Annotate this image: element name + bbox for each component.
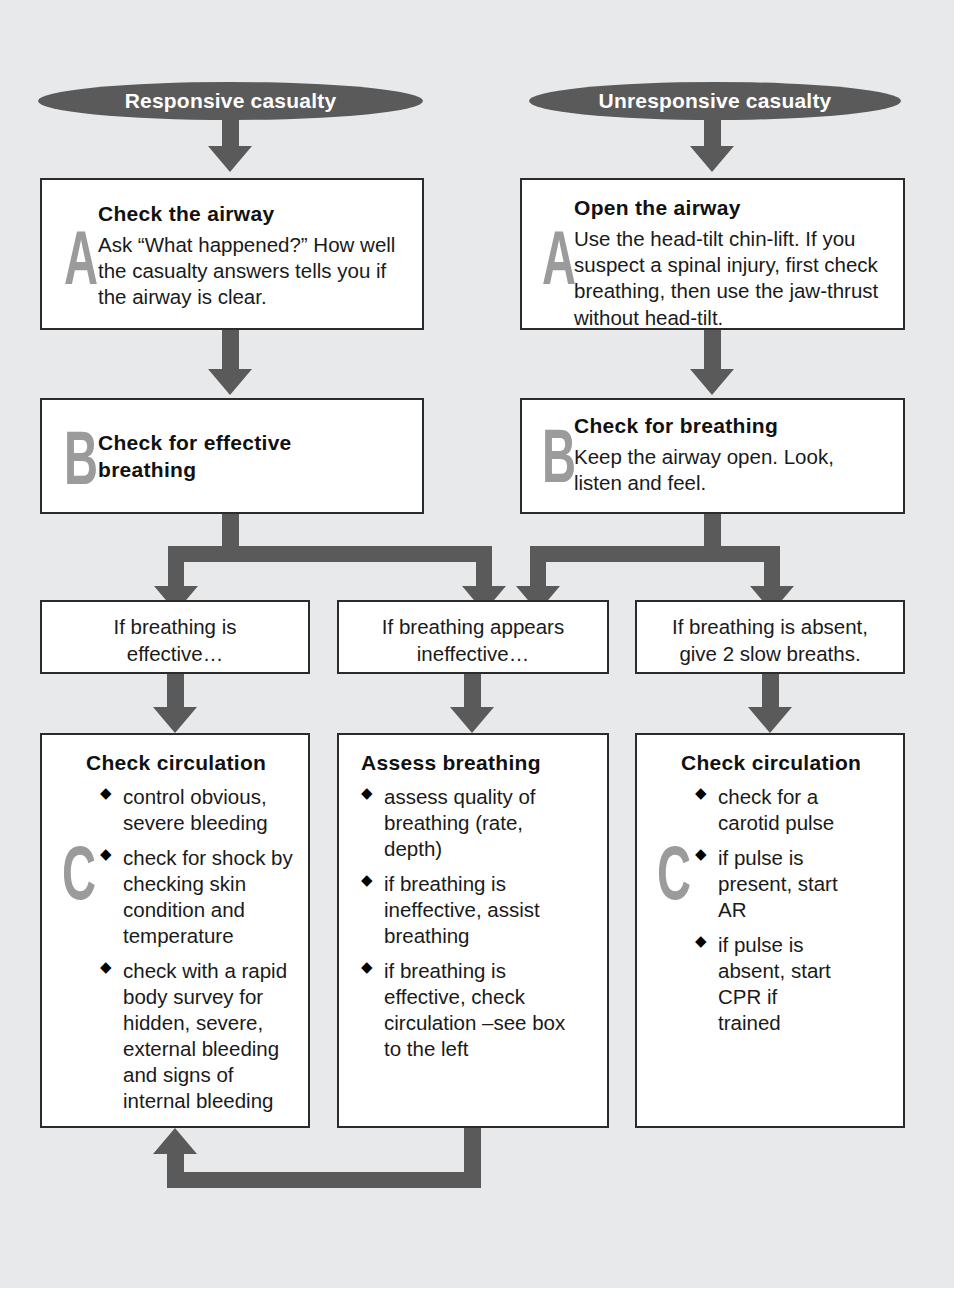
branch-right-drop-left	[530, 546, 546, 590]
box-body-open-the-airway: Use the head-tilt chin-lift. If you susp…	[574, 226, 909, 331]
arrow-head-effective-to-c	[153, 707, 197, 733]
box-check-for-effective-breathing: B Check for effective breathing	[40, 398, 424, 514]
condition-absent-line1: If breathing is absent,	[637, 613, 903, 640]
box-check-circulation-left: C Check circulation control obvious, sev…	[40, 733, 310, 1128]
arrow-head-left-a-to-b	[208, 369, 252, 395]
step-letter-a-right: A	[542, 220, 576, 296]
box-check-for-breathing: B Check for breathing Keep the airway op…	[520, 398, 905, 514]
bullet-list-check-circulation-right: check for a carotid pulse if pulse is pr…	[695, 784, 845, 1045]
step-letter-a-left: A	[64, 220, 98, 296]
box-title-open-the-airway: Open the airway	[574, 196, 741, 220]
arrow-head-ineffective-to-c	[450, 707, 494, 733]
branch-right-crossbar	[530, 546, 780, 562]
bullet-list-check-circulation-left: control obvious, severe bleeding check f…	[100, 784, 300, 1123]
branch-left-drop-right	[476, 546, 492, 590]
start-node-unresponsive-label: Unresponsive casualty	[599, 89, 832, 113]
box-condition-ineffective: If breathing appears ineffective…	[337, 600, 609, 674]
box-title-check-the-airway: Check the airway	[98, 202, 274, 226]
start-node-unresponsive: Unresponsive casualty	[529, 82, 901, 120]
branch-left-crossbar	[168, 546, 492, 562]
condition-effective-line1: If breathing is	[42, 613, 308, 640]
box-title-check-circulation-right: Check circulation	[681, 751, 861, 775]
branch-left-drop-left	[168, 546, 184, 590]
list-item: if pulse is absent, start CPR if trained	[695, 932, 845, 1036]
branch-right-drop-right	[764, 546, 780, 590]
box-assess-breathing: Assess breathing assess quality of breat…	[337, 733, 609, 1128]
box-condition-absent: If breathing is absent, give 2 slow brea…	[635, 600, 905, 674]
arrow-head-left-start-to-a	[208, 146, 252, 172]
return-arrow-crossbar	[167, 1172, 481, 1188]
box-body-check-the-airway: Ask “What happened?” How well the casual…	[98, 232, 413, 311]
arrow-head-right-start-to-a	[690, 146, 734, 172]
arrow-head-absent-to-c	[748, 707, 792, 733]
branch-right-stem	[704, 514, 721, 546]
condition-absent-line2: give 2 slow breaths.	[637, 640, 903, 667]
box-body-check-for-breathing: Keep the airway open. Look, listen and f…	[574, 444, 874, 496]
step-letter-b-right: B	[542, 418, 576, 494]
bullet-list-assess-breathing: assess quality of breathing (rate, depth…	[361, 784, 586, 1071]
list-item: check for shock by checking skin conditi…	[100, 845, 300, 949]
box-title-check-circulation-left: Check circulation	[86, 751, 266, 775]
list-item: assess quality of breathing (rate, depth…	[361, 784, 586, 862]
step-letter-c-right: C	[657, 835, 691, 911]
box-title-check-for-effective-breathing: Check for effective breathing	[98, 430, 378, 484]
list-item: check with a rapid body survey for hidde…	[100, 958, 300, 1114]
list-item: if pulse is present, start AR	[695, 845, 845, 923]
start-node-responsive: Responsive casualty	[38, 82, 423, 120]
diagram-canvas: Responsive casualty Unresponsive casualt…	[0, 0, 954, 1288]
box-open-the-airway: A Open the airway Use the head-tilt chin…	[520, 178, 905, 330]
arrow-shaft-right-a-to-b	[704, 330, 721, 374]
box-check-circulation-right: C Check circulation check for a carotid …	[635, 733, 905, 1128]
condition-ineffective-line2: ineffective…	[339, 640, 607, 667]
box-condition-effective: If breathing is effective…	[40, 600, 310, 674]
step-letter-c-left: C	[62, 835, 96, 911]
return-arrow-head	[153, 1128, 197, 1154]
list-item: check for a carotid pulse	[695, 784, 845, 836]
start-node-responsive-label: Responsive casualty	[125, 89, 337, 113]
list-item: if breathing is ineffective, assist brea…	[361, 871, 586, 949]
list-item: control obvious, severe bleeding	[100, 784, 300, 836]
arrow-head-right-a-to-b	[690, 369, 734, 395]
list-item: if breathing is effective, check circula…	[361, 958, 586, 1062]
condition-effective-line2: effective…	[42, 640, 308, 667]
box-check-the-airway: A Check the airway Ask “What happened?” …	[40, 178, 424, 330]
return-arrow-rise	[167, 1152, 184, 1188]
condition-ineffective-line1: If breathing appears	[339, 613, 607, 640]
box-title-check-for-breathing: Check for breathing	[574, 414, 778, 438]
box-title-assess-breathing: Assess breathing	[361, 751, 541, 775]
flowchart-page: Responsive casualty Unresponsive casualt…	[0, 0, 954, 1303]
arrow-shaft-left-a-to-b	[222, 330, 239, 374]
step-letter-b-left: B	[64, 420, 98, 496]
branch-left-stem	[222, 514, 239, 546]
